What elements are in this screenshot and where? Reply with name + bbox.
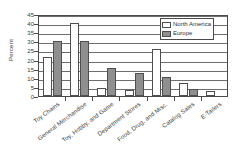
x-axis-category-label: General Merchandise [36, 101, 87, 141]
bar-europe [80, 41, 89, 96]
bar-europe [162, 77, 171, 96]
y-axis-tick-label: 10 [10, 76, 34, 82]
chart-legend: North America Europe [160, 18, 214, 40]
x-axis-tick-mark [174, 97, 175, 101]
y-axis-tick-label: 5 [10, 85, 34, 91]
x-axis-tick-mark [201, 97, 202, 101]
bar-chart: Percent 051015202530354045 Toy ChainsGen… [0, 0, 233, 144]
bar-north-america [179, 83, 188, 96]
bar-europe [107, 68, 116, 96]
legend-swatch-europe [162, 31, 171, 37]
legend-item-north-america: North America [162, 20, 211, 29]
y-axis-tick-label: 30 [10, 39, 34, 45]
bar-north-america [43, 57, 52, 96]
bar-north-america [152, 49, 161, 96]
x-axis-tick-mark [119, 97, 120, 101]
y-axis-tick-mark [34, 97, 38, 98]
y-axis-tick-label: 35 [10, 30, 34, 36]
gridline [39, 80, 227, 81]
x-axis-category-label: Food, Drug, and Misc. [116, 101, 168, 143]
legend-label-europe: Europe [173, 30, 192, 37]
gridline [39, 52, 227, 53]
y-axis-tick-label: 20 [10, 58, 34, 64]
bar-north-america [206, 91, 215, 96]
x-axis-tick-mark [92, 97, 93, 101]
legend-label-north-america: North America [173, 21, 211, 28]
y-axis-tick-label: 40 [10, 21, 34, 27]
x-axis-tick-mark [147, 97, 148, 101]
gridline [39, 62, 227, 63]
bar-north-america [97, 88, 106, 96]
legend-swatch-north-america [162, 22, 171, 28]
legend-item-europe: Europe [162, 29, 211, 38]
x-axis-tick-mark [65, 97, 66, 101]
gridline [39, 71, 227, 72]
gridline [39, 43, 227, 44]
y-axis-tick-label: 0 [10, 94, 34, 100]
y-axis-tick-label: 25 [10, 48, 34, 54]
bar-europe [53, 41, 62, 96]
x-axis-category-label: E-Tailers [200, 101, 223, 120]
gridline [39, 16, 227, 17]
y-axis-tick-label: 45 [10, 12, 34, 18]
bar-europe [135, 73, 144, 96]
bar-north-america [70, 23, 79, 96]
y-axis-tick-label: 15 [10, 67, 34, 73]
bar-north-america [125, 90, 134, 96]
x-axis-category-label: Toy, Hobby, and Game [61, 101, 115, 143]
bar-europe [189, 89, 198, 96]
